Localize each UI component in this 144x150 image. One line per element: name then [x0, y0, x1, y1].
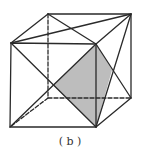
figure-caption: ( b ): [59, 135, 82, 148]
hidden-edge-bottom-left: [10, 98, 48, 127]
top-diagonal-2: [48, 14, 96, 44]
cube-diagram: ( b ): [0, 0, 144, 150]
